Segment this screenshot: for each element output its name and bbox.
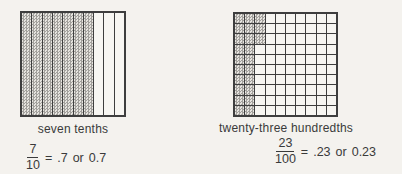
grid-cell-empty: [306, 55, 315, 64]
grid-cell-empty: [327, 34, 336, 43]
grid-cell-empty: [266, 96, 275, 105]
grid-cell-shaded: [235, 45, 244, 54]
grid-cell-empty: [317, 45, 326, 54]
grid-cell-empty: [276, 106, 285, 115]
grid-cell-empty: [276, 45, 285, 54]
grid-cell-shaded: [245, 106, 254, 115]
grid-cell-empty: [266, 34, 275, 43]
grid-cell-shaded: [245, 14, 254, 23]
grid-cell-empty: [317, 24, 326, 33]
grid-cell-empty: [327, 14, 336, 23]
grid-cell-empty: [286, 65, 295, 74]
grid-cell-shaded: [245, 65, 254, 74]
grid-cell-empty: [266, 106, 275, 115]
grid-cell-empty: [306, 14, 315, 23]
grid-cell-empty: [255, 106, 264, 115]
or-word: or: [336, 145, 347, 159]
grid-cell-shaded: [235, 96, 244, 105]
grid-cell-empty: [276, 34, 285, 43]
grid-cell-empty: [296, 106, 305, 115]
grid-cell-shaded: [255, 34, 264, 43]
equals-sign: =: [45, 151, 52, 165]
or-word: or: [73, 151, 84, 165]
grid-cell-empty: [255, 45, 264, 54]
hundredths-fraction: 23 100: [275, 137, 296, 166]
grid-cell-empty: [286, 106, 295, 115]
grid-cell-shaded: [235, 75, 244, 84]
grid-cell-empty: [317, 96, 326, 105]
grid-cell-empty: [317, 106, 326, 115]
grid-cell-shaded: [245, 96, 254, 105]
grid-cell-empty: [317, 85, 326, 94]
grid-cell-empty: [286, 14, 295, 23]
hundredths-figure: twenty-three hundredths 23 100 = .23 or …: [233, 12, 402, 166]
grid-cell-empty: [327, 24, 336, 33]
grid-cell-shaded: [22, 13, 31, 115]
grid-cell-empty: [115, 13, 124, 115]
grid-cell-empty: [306, 45, 315, 54]
grid-cell-shaded: [245, 85, 254, 94]
grid-cell-empty: [266, 24, 275, 33]
grid-cell-empty: [266, 65, 275, 74]
tenths-fraction: 7 10: [26, 143, 40, 172]
grid-cell-shaded: [63, 13, 72, 115]
grid-cell-shaded: [84, 13, 93, 115]
grid-cell-empty: [266, 85, 275, 94]
grid-cell-shaded: [235, 24, 244, 33]
grid-cell-empty: [94, 13, 103, 115]
grid-cell-empty: [286, 55, 295, 64]
grid-cell-empty: [286, 75, 295, 84]
grid-cell-empty: [286, 34, 295, 43]
grid-cell-shaded: [32, 13, 41, 115]
grid-cell-empty: [317, 55, 326, 64]
grid-cell-empty: [255, 85, 264, 94]
grid-cell-empty: [286, 96, 295, 105]
grid-cell-empty: [296, 65, 305, 74]
grid-cell-empty: [327, 106, 336, 115]
grid-cell-empty: [266, 75, 275, 84]
decimal-alt-value: 0.23: [352, 145, 376, 159]
grid-cell-empty: [306, 85, 315, 94]
grid-cell-empty: [296, 14, 305, 23]
hundredths-equation: 23 100 = .23 or 0.23: [275, 137, 402, 166]
fraction-numerator: 23: [276, 137, 294, 152]
tenths-caption: seven tenths: [20, 122, 126, 136]
grid-cell-empty: [296, 55, 305, 64]
grid-cell-shaded: [74, 13, 83, 115]
tenths-grid: [20, 11, 126, 117]
grid-cell-empty: [286, 45, 295, 54]
decimal-alt-value: 0.7: [89, 151, 106, 165]
grid-cell-empty: [306, 96, 315, 105]
grid-cell-empty: [327, 55, 336, 64]
tenths-figure: seven tenths 7 10 = .7 or 0.7: [20, 11, 130, 172]
grid-cell-empty: [317, 75, 326, 84]
grid-cell-empty: [276, 14, 285, 23]
grid-cell-empty: [266, 45, 275, 54]
grid-cell-shaded: [43, 13, 52, 115]
grid-cell-shaded: [235, 85, 244, 94]
grid-cell-empty: [255, 65, 264, 74]
grid-cell-shaded: [235, 55, 244, 64]
decimal-value: .7: [57, 151, 67, 165]
grid-cell-shaded: [235, 34, 244, 43]
grid-cell-shaded: [255, 24, 264, 33]
grid-cell-empty: [266, 55, 275, 64]
grid-cell-empty: [255, 75, 264, 84]
grid-cell-empty: [276, 24, 285, 33]
grid-cell-empty: [276, 55, 285, 64]
grid-cell-empty: [306, 106, 315, 115]
grid-cell-empty: [104, 13, 113, 115]
equals-sign: =: [301, 145, 308, 159]
grid-cell-empty: [255, 96, 264, 105]
grid-cell-shaded: [235, 106, 244, 115]
grid-cell-shaded: [245, 24, 254, 33]
grid-cell-empty: [296, 96, 305, 105]
fraction-denominator: 10: [26, 158, 40, 172]
decimal-value: .23: [313, 145, 330, 159]
grid-cell-empty: [276, 75, 285, 84]
grid-cell-empty: [276, 85, 285, 94]
hundredths-caption: twenty-three hundredths: [206, 121, 366, 135]
grid-cell-empty: [317, 14, 326, 23]
grid-cell-empty: [276, 65, 285, 74]
grid-cell-empty: [327, 65, 336, 74]
